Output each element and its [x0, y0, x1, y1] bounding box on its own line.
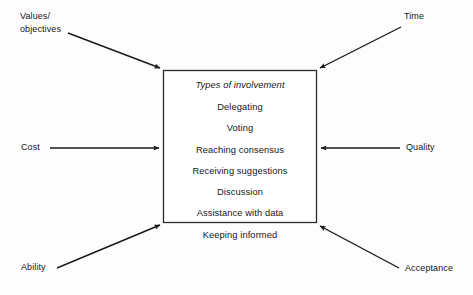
- involvement-item-discussion: Discussion: [217, 187, 263, 197]
- arrow-values-objectives: [68, 33, 160, 68]
- central-box-content: Types of involvement Delegating Voting R…: [164, 71, 316, 222]
- input-label-values-objectives: Values/ objectives: [20, 10, 61, 35]
- arrow-time: [320, 27, 401, 68]
- involvement-item-receiving-suggestions: Receiving suggestions: [192, 166, 287, 176]
- input-label-ability: Ability: [21, 261, 46, 274]
- involvement-item-assistance-with-data: Assistance with data: [197, 208, 284, 218]
- arrow-acceptance: [320, 226, 399, 268]
- input-label-acceptance: Acceptance: [405, 262, 453, 275]
- input-label-cost: Cost: [21, 141, 40, 154]
- involvement-item-delegating: Delegating: [217, 102, 262, 112]
- input-label-values-objectives-line1: Values/: [20, 10, 61, 23]
- input-label-time: Time: [404, 10, 424, 23]
- involvement-item-keeping-informed: Keeping informed: [203, 230, 277, 240]
- involvement-item-voting: Voting: [227, 123, 253, 133]
- input-label-values-objectives-line2: objectives: [20, 23, 61, 36]
- diagram-canvas: Types of involvement Delegating Voting R…: [0, 0, 473, 295]
- input-label-quality: Quality: [406, 141, 435, 154]
- arrow-ability: [57, 225, 160, 268]
- involvement-item-reaching-consensus: Reaching consensus: [196, 145, 284, 155]
- central-box-heading: Types of involvement: [195, 80, 284, 90]
